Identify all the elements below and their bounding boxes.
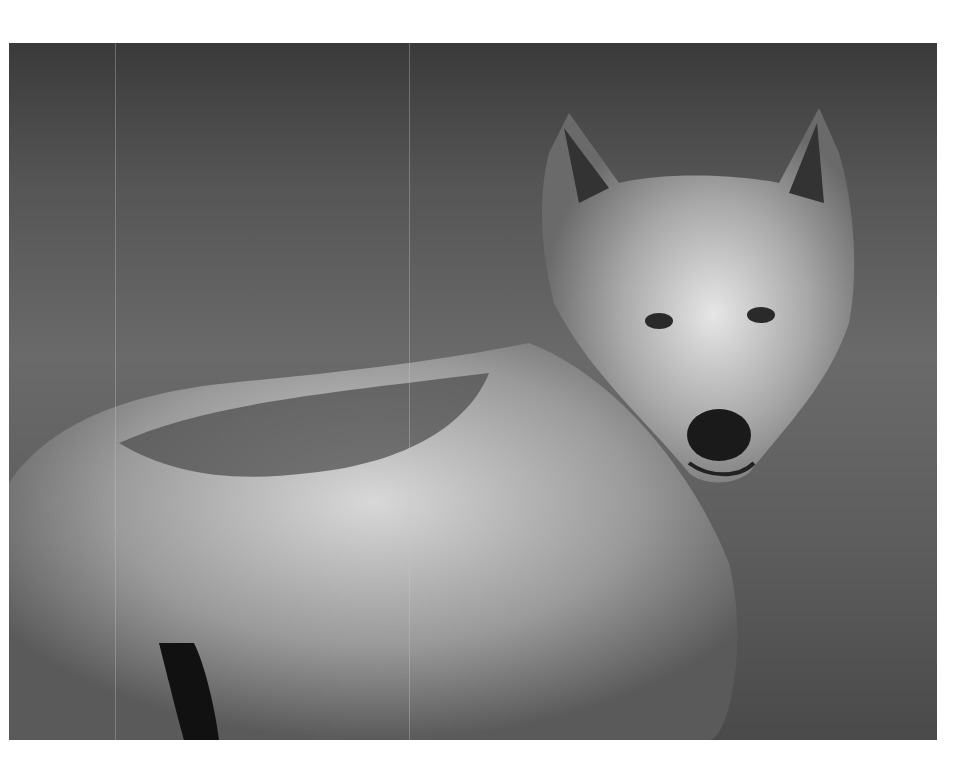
wolf-illustration (9, 43, 937, 740)
scan-line (409, 43, 410, 740)
wolf-photo: Black and white photograph of a wet gray… (9, 43, 937, 740)
scan-line (115, 43, 116, 740)
